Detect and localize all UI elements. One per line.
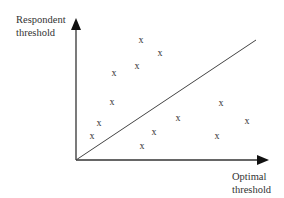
x-marker: x: [140, 141, 145, 151]
x-marker: x: [158, 48, 163, 58]
x-marker: x: [97, 118, 102, 128]
x-marker: x: [152, 127, 157, 137]
threshold-diagram: Respondent threshold Optimal threshold x…: [0, 0, 284, 198]
x-marker: x: [110, 97, 115, 107]
x-marker: x: [139, 35, 144, 45]
y-axis-label: Respondent threshold: [16, 13, 66, 39]
x-marker: x: [245, 116, 250, 126]
x-marker: x: [176, 113, 181, 123]
diagonal-line: [76, 40, 256, 160]
x-marker: x: [135, 61, 140, 71]
x-marker: x: [90, 131, 95, 141]
x-marker: x: [215, 131, 220, 141]
x-marker: x: [219, 98, 224, 108]
x-axis-label: Optimal threshold: [232, 170, 271, 196]
x-marker: x: [112, 68, 117, 78]
